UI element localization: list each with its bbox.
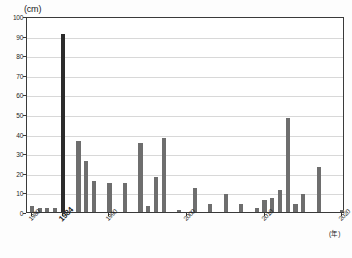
y-axis-tick-label: 60 [16, 92, 23, 99]
y-axis-unit-label: (cm) [24, 4, 41, 14]
bar [278, 190, 282, 212]
bar [286, 118, 290, 212]
bar [84, 161, 88, 212]
bar [154, 177, 158, 212]
bar [53, 208, 57, 212]
bar [239, 204, 243, 212]
y-axis: 0102030405060708090100 [0, 17, 26, 213]
y-axis-tick-label: 70 [16, 72, 23, 79]
y-axis-tick-label: 20 [16, 170, 23, 177]
y-axis-tick-label: 80 [16, 53, 23, 60]
x-axis-unit-label: (年) [329, 228, 340, 238]
bar [146, 206, 150, 212]
bar [123, 183, 127, 212]
bar [45, 208, 49, 212]
y-axis-tick-label: 100 [13, 14, 23, 21]
x-axis: 198019841990200020102020 [26, 213, 344, 258]
bar-series [27, 18, 343, 212]
bar [138, 143, 142, 212]
bar [208, 204, 212, 212]
bar [224, 194, 228, 212]
bar [193, 188, 197, 212]
bar [293, 204, 297, 212]
bar [317, 167, 321, 212]
bar [92, 181, 96, 212]
y-axis-tick-label: 50 [16, 112, 23, 119]
y-axis-tick-label: 40 [16, 131, 23, 138]
bar [76, 141, 80, 212]
snowfall-bar-chart: (cm) 0102030405060708090100 198019841990… [0, 0, 352, 258]
bar [162, 138, 166, 212]
y-axis-tick-label: 10 [16, 190, 23, 197]
y-axis-tick-label: 30 [16, 151, 23, 158]
bar [177, 210, 181, 212]
plot-area [26, 17, 344, 213]
bar [107, 183, 111, 212]
bar [61, 34, 65, 212]
y-axis-tick-label: 90 [16, 33, 23, 40]
bar [301, 194, 305, 212]
bar [255, 208, 259, 212]
